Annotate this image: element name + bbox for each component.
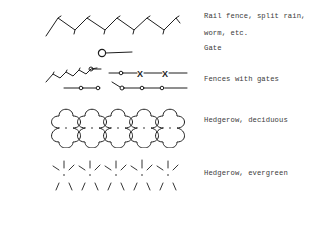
fences-with-gates-symbol: X X [44, 64, 194, 96]
evergreen-hedgerow-icon [44, 158, 190, 196]
svg-text:X: X [137, 69, 143, 79]
label-hedgerow-evergreen: Hedgerow, evergreen [204, 169, 288, 178]
hedgerow-evergreen-symbol [44, 158, 190, 196]
deciduous-hedgerow-icon [44, 106, 190, 148]
gate-symbol [96, 46, 136, 60]
rail-fence-symbol [44, 14, 184, 40]
fence-with-gates-icon: X X [44, 64, 194, 96]
svg-text:X: X [162, 69, 168, 79]
label-gate: Gate [204, 44, 222, 53]
hedgerow-deciduous-symbol [44, 106, 190, 148]
map-legend: Rail fence, split rain, worm, etc. Gate … [0, 0, 322, 228]
gate-icon [96, 46, 136, 60]
label-fences-with-gates: Fences with gates [204, 75, 279, 84]
label-hedgerow-deciduous: Hedgerow, deciduous [204, 116, 288, 125]
label-rail-fence-line1: Rail fence, split rain, [204, 12, 306, 21]
label-rail-fence-line2: worm, etc. [204, 29, 248, 38]
zigzag-fence-icon [44, 14, 184, 40]
